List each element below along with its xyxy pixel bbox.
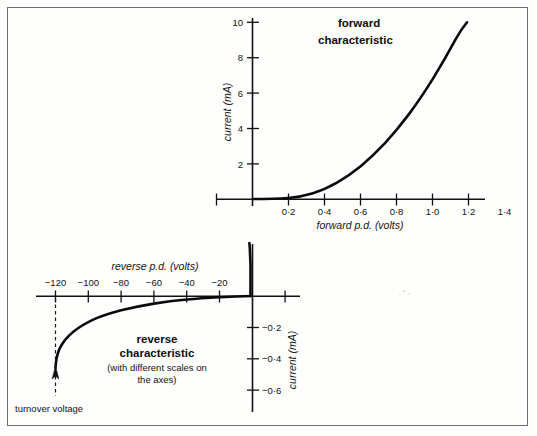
forward-y-ticklabel-6: 6 <box>238 88 243 99</box>
forward-chart-title-line1: forward <box>338 17 380 29</box>
reverse-chart-subtitle-line2: the axes) <box>137 374 176 385</box>
reverse-x-ticklabel-minus120: −120 <box>45 277 66 288</box>
forward-curve <box>253 22 467 199</box>
paper-speck <box>400 295 401 296</box>
forward-y-ticklabel-4: 4 <box>238 123 243 134</box>
reverse-x-ticklabel-minus80: −80 <box>113 277 129 288</box>
forward-x-ticklabel-1-0: 1·0 <box>426 206 440 217</box>
forward-x-ticklabel-1-4: 1·4 <box>498 206 512 217</box>
diode-characteristics-figure: 10 8 6 4 2 0·2 0·4 0·6 0·8 1· <box>0 0 537 436</box>
figure-page: 10 8 6 4 2 0·2 0·4 0·6 0·8 1· <box>0 0 537 436</box>
paper-speck <box>403 290 405 292</box>
forward-y-ticklabel-8: 8 <box>238 52 243 63</box>
forward-y-ticklabels: 10 8 6 4 2 <box>232 17 243 170</box>
forward-x-ticklabel-1-2: 1·2 <box>462 206 476 217</box>
reverse-characteristic-chart: −120 −100 −80 −60 −40 −20 −0·2 −0·4 −0·6 <box>15 243 300 414</box>
reverse-chart-title-line2: characteristic <box>120 347 195 359</box>
reverse-chart-subtitle-line1: (with different scales on <box>107 362 207 373</box>
reverse-chart-title-line1: reverse <box>137 333 178 345</box>
turnover-voltage-label: turnover voltage <box>15 403 83 414</box>
paper-speck <box>408 293 409 294</box>
forward-x-ticklabel-0-8: 0·8 <box>390 206 404 217</box>
reverse-y-ticklabel-minus0-2: −0·2 <box>262 322 281 333</box>
forward-y-ticklabel-2: 2 <box>238 159 243 170</box>
reverse-y-ticklabel-minus0-6: −0·6 <box>262 385 281 396</box>
forward-x-ticklabel-0-2: 0·2 <box>282 206 296 217</box>
reverse-x-ticklabels: −120 −100 −80 −60 −40 −20 <box>45 277 228 288</box>
reverse-x-ticklabel-minus40: −40 <box>179 277 195 288</box>
forward-y-ticklabel-10: 10 <box>232 17 243 28</box>
reverse-y-axis-title: current (mA) <box>286 331 298 389</box>
reverse-x-ticklabel-minus20: −20 <box>211 277 227 288</box>
forward-x-axis-title: forward p.d. (volts) <box>317 219 404 231</box>
forward-x-ticklabel-0-6: 0·6 <box>354 206 368 217</box>
reverse-forward-spike <box>249 243 250 296</box>
reverse-x-ticklabel-minus100: −100 <box>78 277 99 288</box>
forward-x-ticklabels: 0·2 0·4 0·6 0·8 1·0 1·2 1·4 <box>282 206 512 217</box>
forward-characteristic-chart: 10 8 6 4 2 0·2 0·4 0·6 0·8 1· <box>216 17 511 231</box>
reverse-x-axis-title: reverse p.d. (volts) <box>112 260 199 272</box>
reverse-y-ticklabels: −0·2 −0·4 −0·6 <box>262 322 281 396</box>
forward-y-axis-title: current (mA) <box>221 83 233 141</box>
reverse-x-ticklabel-minus60: −60 <box>146 277 162 288</box>
forward-x-ticklabel-0-4: 0·4 <box>318 206 332 217</box>
reverse-y-ticklabel-minus0-4: −0·4 <box>262 353 281 364</box>
forward-chart-title-line2: characteristic <box>318 34 393 46</box>
